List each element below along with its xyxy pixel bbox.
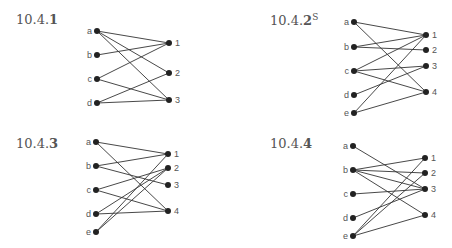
- node-label-e: e: [86, 227, 91, 237]
- node-label-4: 4: [174, 206, 179, 216]
- edge-c-1: [97, 43, 169, 79]
- node-d: [93, 211, 99, 217]
- node-label-4: 4: [431, 210, 436, 220]
- edge-c-2: [96, 168, 168, 190]
- edge-b-1: [353, 158, 425, 170]
- node-label-c: c: [87, 185, 92, 195]
- edge-b-2: [354, 47, 426, 50]
- node-label-b: b: [87, 50, 92, 60]
- node-label-3: 3: [432, 61, 437, 71]
- node-1: [165, 151, 171, 157]
- edge-e-1: [353, 158, 425, 236]
- node-label-2: 2: [175, 68, 180, 78]
- node-a: [94, 28, 100, 34]
- node-c: [94, 76, 100, 82]
- node-2: [423, 47, 429, 53]
- node-label-a: a: [343, 141, 348, 151]
- node-e: [351, 110, 357, 116]
- node-label-2: 2: [174, 163, 179, 173]
- node-d: [350, 215, 356, 221]
- node-b: [94, 52, 100, 58]
- node-label-1: 1: [431, 153, 436, 163]
- node-e: [350, 233, 356, 239]
- edge-b-3: [96, 166, 168, 185]
- node-d: [94, 100, 100, 106]
- node-1: [422, 155, 428, 161]
- node-label-c: c: [345, 66, 350, 76]
- node-3: [422, 186, 428, 192]
- edge-d-3: [97, 100, 169, 103]
- node-label-2: 2: [431, 168, 436, 178]
- graph-10.4.2S: abcde1234: [344, 17, 437, 118]
- graph-10.4.1: abcd123: [87, 26, 180, 108]
- node-label-d: d: [86, 209, 91, 219]
- node-label-a: a: [87, 26, 92, 36]
- node-2: [422, 170, 428, 176]
- edge-e-2: [353, 173, 425, 236]
- graph-10.4.3: abcde1234: [86, 137, 179, 237]
- node-3: [166, 97, 172, 103]
- node-3: [423, 63, 429, 69]
- node-c: [93, 187, 99, 193]
- node-label-d: d: [87, 98, 92, 108]
- node-label-e: e: [343, 231, 348, 241]
- edge-b-1: [354, 35, 426, 47]
- node-a: [350, 143, 356, 149]
- edge-b-1: [97, 43, 169, 55]
- node-label-b: b: [86, 161, 91, 171]
- edge-d-4: [96, 211, 168, 214]
- edge-b-1: [96, 154, 168, 166]
- node-label-1: 1: [432, 30, 437, 40]
- edge-e-4: [354, 92, 426, 113]
- edge-d-2: [97, 73, 169, 103]
- node-label-3: 3: [174, 180, 179, 190]
- node-c: [350, 191, 356, 197]
- node-label-e: e: [344, 108, 349, 118]
- node-label-b: b: [343, 165, 348, 175]
- node-a: [93, 139, 99, 145]
- node-label-a: a: [86, 137, 91, 147]
- node-2: [166, 70, 172, 76]
- node-2: [165, 165, 171, 171]
- node-b: [351, 44, 357, 50]
- node-label-4: 4: [432, 87, 437, 97]
- node-label-3: 3: [175, 95, 180, 105]
- node-label-b: b: [344, 42, 349, 52]
- node-a: [351, 19, 357, 25]
- node-c: [351, 68, 357, 74]
- bipartite-graphs-canvas: abcd123abcde1234abcde1234abcde1234: [0, 0, 452, 248]
- node-label-1: 1: [174, 149, 179, 159]
- node-4: [165, 208, 171, 214]
- node-3: [165, 182, 171, 188]
- node-1: [166, 40, 172, 46]
- node-e: [93, 229, 99, 235]
- node-label-1: 1: [175, 38, 180, 48]
- node-1: [423, 32, 429, 38]
- node-label-d: d: [343, 213, 348, 223]
- node-4: [423, 89, 429, 95]
- node-label-c: c: [88, 74, 93, 84]
- node-b: [93, 163, 99, 169]
- node-label-a: a: [344, 17, 349, 27]
- edge-e-4: [353, 215, 425, 236]
- node-label-c: c: [344, 189, 349, 199]
- node-d: [351, 92, 357, 98]
- node-label-3: 3: [431, 184, 436, 194]
- edge-b-4: [353, 170, 425, 215]
- node-b: [350, 167, 356, 173]
- node-4: [422, 212, 428, 218]
- graph-10.4.4: abcde1234: [343, 141, 436, 241]
- edge-d-2: [96, 168, 168, 214]
- node-label-2: 2: [432, 45, 437, 55]
- node-label-d: d: [344, 90, 349, 100]
- edge-e-2: [96, 168, 168, 232]
- edge-c-1: [354, 35, 426, 71]
